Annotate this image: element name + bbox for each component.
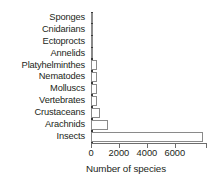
plot-area <box>91 12 207 143</box>
table-row <box>91 131 207 143</box>
bar-insects <box>91 132 203 142</box>
x-axis-title: Number of species <box>0 163 218 174</box>
category-label: Nematodes <box>0 71 88 83</box>
table-row <box>91 24 207 36</box>
x-tick <box>119 143 120 148</box>
table-row <box>91 119 207 131</box>
category-axis-labels: Sponges Cnidarians Ectoprocts Annelids P… <box>0 12 88 143</box>
x-tick <box>147 143 148 148</box>
bar-sponges <box>91 13 93 23</box>
bar-cnidarians <box>91 24 93 34</box>
x-tick <box>175 143 176 148</box>
bar-molluscs <box>91 84 97 94</box>
bar-chart: Sponges Cnidarians Ectoprocts Annelids P… <box>0 0 218 183</box>
category-label: Cnidarians <box>0 24 88 36</box>
bar-annelids <box>91 48 93 58</box>
x-axis-tick-labels: 0200040006000 <box>0 148 218 160</box>
x-axis-title-text: Number of species <box>86 163 166 174</box>
bar-vertebrates <box>91 96 97 106</box>
category-label: Arachnids <box>0 119 88 131</box>
category-label: Sponges <box>0 12 88 24</box>
table-row <box>91 71 207 83</box>
bar-arachnids <box>91 120 108 130</box>
table-row <box>91 95 207 107</box>
table-row <box>91 60 207 72</box>
x-tick-label: 6000 <box>155 148 195 158</box>
bar-nematodes <box>91 72 97 82</box>
category-label: Molluscs <box>0 83 88 95</box>
table-row <box>91 12 207 24</box>
x-tick <box>91 143 92 148</box>
bar-platyhelminthes <box>91 60 97 70</box>
bar-ectoprocts <box>91 36 93 46</box>
category-label: Insects <box>0 131 88 143</box>
bar-series <box>91 12 207 143</box>
table-row <box>91 36 207 48</box>
table-row <box>91 107 207 119</box>
category-label: Ectoprocts <box>0 36 88 48</box>
category-label: Vertebrates <box>0 95 88 107</box>
bar-crustaceans <box>91 108 100 118</box>
category-label: Platyhelminthes <box>0 60 88 72</box>
table-row <box>91 48 207 60</box>
category-label: Annelids <box>0 48 88 60</box>
table-row <box>91 83 207 95</box>
category-label: Crustaceans <box>0 107 88 119</box>
